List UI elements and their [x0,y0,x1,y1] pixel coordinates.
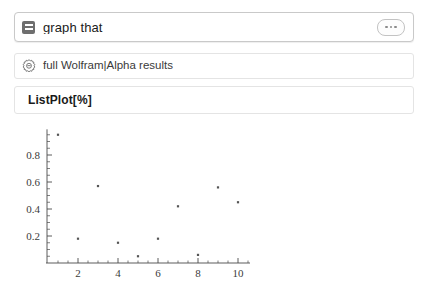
data-point [137,255,139,257]
icon-bar-bottom [25,28,33,30]
x-axis-major-ticks [78,258,238,263]
data-point [157,238,159,240]
data-point-series [57,134,239,258]
data-point [197,254,199,256]
gear-icon [22,59,36,73]
input-interpretation-label: ListPlot[%] [28,94,92,106]
data-point [237,201,239,203]
icon-bar-top [25,24,33,26]
input-interpretation-row: ListPlot[%] [14,86,414,114]
full-results-label: full Wolfram|Alpha results [43,60,173,72]
x-tick-label: 4 [115,267,121,279]
data-point [77,238,79,240]
x-axis-tick-labels: 246810 [75,267,244,279]
scatter-plot: 246810 0.20.40.60.8 [0,118,300,288]
y-axis-tick-labels: 0.20.40.60.8 [26,149,40,242]
ellipsis-icon[interactable] [377,19,405,36]
ellipsis-dot-3 [394,26,397,29]
y-tick-label: 0.8 [26,149,40,161]
plot-canvas: 246810 0.20.40.60.8 [0,118,300,288]
y-tick-label: 0.6 [26,176,40,188]
x-tick-label: 6 [155,267,161,279]
data-point [177,205,179,207]
y-tick-label: 0.2 [26,230,40,242]
data-point [117,242,119,244]
query-bar[interactable]: graph that [14,12,414,42]
full-results-row[interactable]: full Wolfram|Alpha results [14,53,414,79]
list-square-icon [22,21,35,34]
data-point [57,134,59,136]
plot-axes [46,129,250,263]
ellipsis-dot-1 [385,26,388,29]
ellipsis-dot-2 [390,26,393,29]
data-point [217,186,219,188]
x-tick-label: 10 [233,267,245,279]
x-tick-label: 2 [75,267,81,279]
data-point [97,185,99,187]
y-tick-label: 0.4 [26,203,40,215]
x-tick-label: 8 [195,267,201,279]
query-input-text[interactable]: graph that [43,21,377,34]
